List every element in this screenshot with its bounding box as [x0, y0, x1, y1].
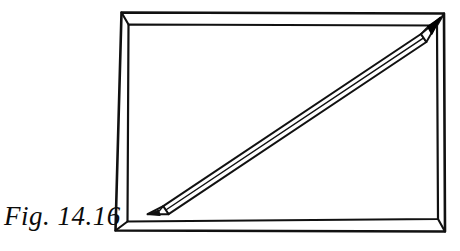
figure-container: Fig. 14.16: [0, 0, 460, 251]
figure-caption: Fig. 14.16: [4, 200, 121, 232]
